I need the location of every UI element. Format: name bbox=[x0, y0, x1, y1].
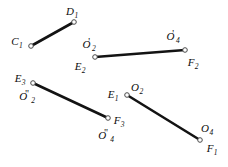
label-F2-base: F bbox=[188, 56, 195, 68]
label-F1: F1 bbox=[207, 143, 218, 154]
point-C1-marker bbox=[29, 44, 34, 49]
label-C1-base: C bbox=[11, 35, 18, 47]
label-O4prime-prime: ' bbox=[172, 27, 173, 38]
label-O2prime: O'2 bbox=[82, 39, 95, 50]
label-O4prime: O'4 bbox=[166, 31, 179, 42]
point-F1-marker bbox=[198, 138, 203, 143]
label-O4: O4 bbox=[201, 123, 213, 134]
point-F2-marker bbox=[183, 48, 188, 53]
segment-E3-F3 bbox=[33, 83, 108, 118]
label-O4dprime: O"4 bbox=[98, 130, 114, 141]
label-E2-subscript: 2 bbox=[82, 65, 86, 74]
point-F3-marker bbox=[106, 116, 111, 121]
label-D1-base: D bbox=[66, 5, 74, 17]
label-O2prime-prime: ' bbox=[88, 35, 89, 46]
label-O4dprime-prime: " bbox=[104, 126, 108, 137]
label-E3-base: E bbox=[15, 72, 22, 84]
label-E3-subscript: 3 bbox=[22, 77, 26, 86]
label-E2: E2 bbox=[75, 61, 86, 72]
label-O4-subscript: 4 bbox=[209, 127, 213, 136]
label-E3: E3 bbox=[15, 73, 26, 84]
label-O2prime-subscript: 2 bbox=[92, 43, 96, 52]
label-O4-base: O bbox=[201, 122, 209, 134]
label-O2: O2 bbox=[131, 82, 143, 93]
label-F3: F3 bbox=[114, 115, 125, 126]
label-E2-base: E bbox=[75, 60, 82, 72]
label-E1: E1 bbox=[108, 89, 119, 100]
label-F2-subscript: 2 bbox=[195, 61, 199, 70]
point-E1-marker bbox=[125, 93, 130, 98]
label-O2-subscript: 2 bbox=[139, 86, 143, 95]
label-O2dprime-prime: " bbox=[25, 87, 29, 98]
label-C1: C1 bbox=[11, 36, 22, 47]
segment-diagram-canvas: D1C1O'2E2O'4F2E3O"2E1O2F3O"4O4F1 bbox=[0, 0, 228, 167]
label-O4dprime-subscript: 4 bbox=[110, 134, 114, 143]
label-F3-base: F bbox=[114, 114, 121, 126]
label-F1-subscript: 1 bbox=[214, 147, 218, 156]
segment-C1-D1 bbox=[31, 22, 74, 46]
label-D1: D1 bbox=[66, 6, 78, 17]
point-E3-marker bbox=[31, 81, 36, 86]
segment-E2-F2 bbox=[95, 50, 185, 57]
label-O4prime-subscript: 4 bbox=[176, 35, 180, 44]
label-O2dprime: O"2 bbox=[19, 91, 35, 102]
label-O2-base: O bbox=[131, 81, 139, 93]
segment-E1-F1 bbox=[127, 95, 200, 140]
label-O2dprime-subscript: 2 bbox=[31, 95, 35, 104]
label-F1-base: F bbox=[207, 142, 214, 154]
label-D1-subscript: 1 bbox=[74, 10, 78, 19]
point-D1-marker bbox=[72, 20, 77, 25]
label-E1-subscript: 1 bbox=[115, 93, 119, 102]
point-E2-marker bbox=[93, 55, 98, 60]
label-F3-subscript: 3 bbox=[121, 119, 125, 128]
label-F2: F2 bbox=[188, 57, 199, 68]
label-E1-base: E bbox=[108, 88, 115, 100]
label-C1-subscript: 1 bbox=[19, 40, 23, 49]
